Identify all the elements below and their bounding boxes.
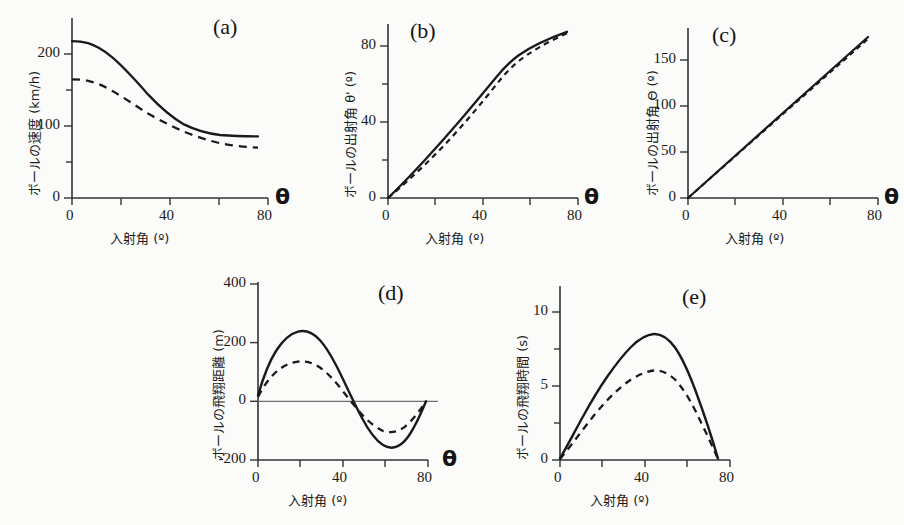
panel-e-ylabel: ボールの飛翔時間 (s) bbox=[512, 335, 531, 460]
panel-c-yticks bbox=[680, 60, 688, 198]
panel-b-series-solid bbox=[388, 32, 567, 198]
panel-a-axes bbox=[72, 18, 268, 198]
panel-b-ylabel: ボールの出射角 θ' (º) bbox=[340, 71, 359, 198]
panel-d-axes bbox=[258, 282, 428, 460]
panel-c-ytick-0: 0 bbox=[650, 188, 676, 205]
panel-b-ytick-0: 0 bbox=[350, 188, 376, 205]
panel-e-xlabel: 入射角 (º) bbox=[590, 490, 649, 509]
panel-d-theta-symbol: θ bbox=[442, 446, 457, 471]
figure-canvas: ボールの速度 (km/h) 0 100 200 0 40 80 θ (a) 入射… bbox=[0, 0, 904, 525]
panel-e-yticks bbox=[552, 312, 560, 460]
panel-c-xticks bbox=[688, 198, 878, 205]
panel-d-xtick-80: 80 bbox=[417, 469, 432, 486]
panel-b-xtick-40: 40 bbox=[472, 207, 487, 224]
panel-d-yticks bbox=[250, 284, 258, 460]
panel-b: ボールの出射角 θ' (º) 0 40 80 0 40 80 θ (b) 入射角… bbox=[300, 0, 600, 260]
panel-d-xlabel: 入射角 (º) bbox=[288, 490, 347, 509]
panel-a-xtick-80: 80 bbox=[257, 207, 272, 224]
panel-a-ytick-0: 0 bbox=[34, 188, 60, 205]
panel-a-theta-symbol: θ bbox=[275, 184, 290, 209]
panel-c-ytick-100: 100 bbox=[628, 96, 676, 113]
panel-a-yticks bbox=[64, 54, 72, 198]
panel-e-ytick-0: 0 bbox=[522, 450, 548, 467]
panel-c: ボールの出射角 Θ (º) 0 50 100 150 0 40 80 θ (c)… bbox=[600, 0, 904, 260]
panel-d-ytick-neg200: -200 bbox=[186, 450, 246, 467]
panel-a-ylabel: ボールの速度 (km/h) bbox=[24, 71, 43, 196]
panel-c-ytick-150: 150 bbox=[628, 50, 676, 67]
panel-b-yticks bbox=[380, 46, 388, 198]
panel-e-xtick-0: 0 bbox=[554, 469, 562, 486]
panel-c-xtick-80: 80 bbox=[867, 207, 882, 224]
panel-a-xtick-40: 40 bbox=[159, 207, 174, 224]
panel-a-label: (a) bbox=[213, 14, 237, 40]
panel-d-series-solid bbox=[258, 331, 426, 448]
panel-d-label: (d) bbox=[378, 280, 404, 306]
panel-b-ytick-40: 40 bbox=[336, 112, 376, 129]
panel-b-xticks bbox=[388, 198, 578, 205]
panel-b-label: (b) bbox=[410, 18, 436, 44]
panel-d: ボールの飛翔距離 (m) -200 0 200 400 0 40 80 θ (d… bbox=[170, 268, 490, 525]
panel-d-series-dashed bbox=[258, 361, 426, 432]
panel-a-xlabel: 入射角 (º) bbox=[110, 228, 169, 247]
panel-a-ytick-100: 100 bbox=[20, 116, 60, 133]
panel-e-xticks bbox=[560, 460, 730, 467]
panel-e-label: (e) bbox=[682, 284, 706, 310]
panel-c-label: (c) bbox=[712, 22, 736, 48]
panel-d-xticks bbox=[258, 460, 428, 467]
panel-e-xtick-40: 40 bbox=[634, 469, 649, 486]
panel-a-ytick-200: 200 bbox=[20, 44, 60, 61]
panel-c-xtick-40: 40 bbox=[772, 207, 787, 224]
panel-d-xtick-40: 40 bbox=[332, 469, 347, 486]
panel-a-series-dashed bbox=[72, 79, 258, 147]
panel-e-ytick-5: 5 bbox=[522, 376, 548, 393]
panel-b-xlabel: 入射角 (º) bbox=[425, 228, 484, 247]
panel-b-theta-symbol: θ bbox=[584, 184, 599, 209]
panel-e-xtick-80: 80 bbox=[719, 469, 734, 486]
panel-e-ytick-10: 10 bbox=[508, 302, 548, 319]
panel-c-xlabel: 入射角 (º) bbox=[725, 228, 784, 247]
panel-b-axes bbox=[388, 24, 578, 198]
panel-d-ytick-0: 0 bbox=[206, 391, 246, 408]
panel-c-ytick-50: 50 bbox=[636, 142, 676, 159]
panel-b-xtick-80: 80 bbox=[567, 207, 582, 224]
panel-b-xtick-0: 0 bbox=[382, 207, 390, 224]
panel-b-series-dashed bbox=[388, 33, 567, 198]
panel-c-xtick-0: 0 bbox=[682, 207, 690, 224]
panel-d-ytick-200: 200 bbox=[198, 333, 246, 350]
panel-b-ytick-80: 80 bbox=[336, 36, 376, 53]
panel-a: ボールの速度 (km/h) 0 100 200 0 40 80 θ (a) 入射… bbox=[0, 0, 300, 260]
panel-d-xtick-0: 0 bbox=[252, 469, 260, 486]
panel-c-series-dashed bbox=[688, 39, 868, 198]
panel-e-series-solid bbox=[560, 334, 718, 459]
panel-c-theta-symbol: θ bbox=[884, 184, 899, 209]
panel-d-ytick-400: 400 bbox=[198, 274, 246, 291]
panel-a-xtick-0: 0 bbox=[66, 207, 74, 224]
panel-c-ylabel: ボールの出射角 Θ (º) bbox=[642, 70, 661, 196]
panel-e: ボールの飛翔時間 (s) 0 5 10 0 40 80 (e) 入射角 (º) bbox=[468, 268, 788, 525]
panel-a-xticks bbox=[72, 198, 268, 205]
panel-e-axes bbox=[560, 286, 730, 460]
